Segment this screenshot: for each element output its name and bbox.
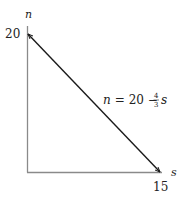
y-axis-label: n	[25, 8, 32, 21]
eq-frac-den: 3	[154, 101, 158, 109]
x-tick-15: 15	[153, 180, 168, 194]
eq-frac-num: 4	[154, 92, 159, 100]
chart: n 20 s 15 n = 20 − 4 3 s	[0, 0, 186, 197]
eq-var: s	[161, 93, 167, 107]
equation-annotation: n = 20 − 4 3 s	[103, 92, 167, 109]
eq-lhs: n	[103, 93, 111, 107]
y-tick-20: 20	[5, 27, 20, 41]
x-axis-label: s	[171, 166, 177, 179]
